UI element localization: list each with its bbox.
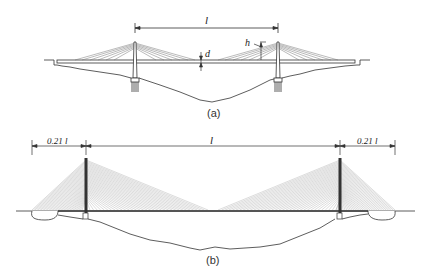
tower-height-label: h [245, 37, 250, 48]
cables-b-right [218, 160, 395, 210]
main-span-label: l [210, 134, 213, 146]
caption-b: (b) [206, 254, 219, 266]
deck-depth-dimension [200, 52, 203, 71]
span-dimensions-b [32, 140, 395, 155]
deck-depth-label: d [205, 48, 211, 59]
caption-a: (a) [207, 107, 220, 119]
span-label-a: l [205, 14, 208, 26]
figure-b: 0.21 l l 0.21 l (b) [16, 134, 415, 266]
riverbed-b [58, 214, 368, 250]
deck-a [57, 60, 355, 63]
anchorage-left [32, 211, 58, 220]
left-side-span-label: 0.21 l [47, 136, 68, 146]
riverbed-a [57, 65, 357, 102]
figure-a: l [44, 14, 370, 119]
ground-line-a [44, 60, 370, 65]
cables-b-left [32, 160, 208, 210]
bridge-diagram: l [0, 0, 430, 279]
deck-b [58, 210, 368, 212]
right-side-span-label: 0.21 l [357, 136, 378, 146]
anchorage-right [368, 211, 395, 220]
